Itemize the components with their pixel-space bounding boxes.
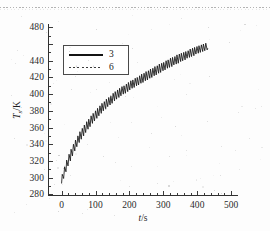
plot-area: 280300320340360380400420440480 010020030… [48,24,238,196]
y-tick-label: 380 [29,106,44,116]
legend-swatch-dotted-line: + + [68,63,104,72]
speckle-dot [14,212,15,213]
chart-figure: 280300320340360380400420440480 010020030… [0,0,270,231]
x-tick-label: 400 [190,200,205,210]
speckle-dot [50,103,52,105]
speckle-dot [240,30,241,31]
y-axis-title: Ts/K [12,101,24,119]
legend-label-6: 6 [109,61,114,74]
chart-legend: 3 + + 6 [63,45,129,75]
speckle-dot [103,156,104,157]
legend-entry-6: + + 6 [68,61,125,74]
speckle-dot [149,147,150,148]
speckle-dot [214,190,215,191]
speckle-dot [45,140,47,142]
speckle-dot [26,204,27,205]
y-tick-label: 480 [29,22,44,32]
speckle-dot [241,106,243,108]
speckle-dot [202,186,204,188]
x-tick-label: 200 [122,200,137,210]
speckle-dot [109,82,110,83]
x-axis-title-unit: /s [141,213,147,223]
y-tick-label: 400 [29,89,44,99]
speckle-dot [137,62,138,63]
speckle-dot [208,27,209,28]
x-tick-label: 300 [156,200,171,210]
speckle-dot [255,108,256,109]
legend-entry-3: 3 [68,48,125,61]
y-tick-label: 320 [29,156,44,166]
speckle-dot [75,76,76,77]
speckle-dot [15,63,16,64]
legend-label-3: 3 [109,48,114,61]
x-tick-label: 500 [224,200,239,210]
speckle-dot [120,180,121,181]
speckle-dot [49,198,50,199]
speckle-dot [256,25,257,26]
speckle-dot [36,25,38,27]
speckle-dot [54,184,55,185]
speckle-dot [260,159,261,160]
x-axis-title: t/s [48,213,238,223]
y-tick-label: 360 [29,123,44,133]
speckle-dot [151,133,152,134]
speckle-dot [62,176,63,177]
y-axis-title-unit: /K [12,101,22,111]
speckle-dot [161,117,162,118]
x-tick-label: 100 [88,200,103,210]
speckle-dot [62,184,63,185]
y-axis-title-symbol: T [12,113,22,118]
speckle-dot [26,144,28,146]
speckle-dot [261,106,262,107]
speckle-dot [238,112,239,113]
speckle-dot [11,59,12,60]
speckle-dot [186,155,187,156]
speckle-dot [258,89,259,90]
y-tick-label: 340 [29,139,44,149]
speckle-dot [174,79,175,80]
speckle-dot [115,194,116,195]
speckle-dot [77,71,78,72]
speckle-dot [14,138,15,139]
speckle-dot [64,124,65,125]
speckle-dot [157,106,158,107]
speckle-dot [168,185,170,187]
speckle-dot [56,80,57,81]
speckle-dot [75,153,77,155]
y-tick-label: 420 [29,72,44,82]
speckle-dot [58,211,59,212]
speckle-dot [110,96,111,97]
speckle-dot [200,178,201,179]
speckle-dot [42,176,44,178]
y-tick-label: 280 [29,189,44,199]
figure-root: 280300320340360380400420440480 010020030… [0,0,270,231]
speckle-dot [235,150,236,151]
x-tick-label: 0 [59,200,64,210]
y-tick-label: 440 [29,56,44,66]
speckle-dot [180,74,181,75]
speckle-dot [249,138,250,139]
speckle-dot [44,133,45,134]
speckle-dot [57,167,59,169]
y-axis-title-subscript: s [16,111,24,114]
speckle-dot [105,108,106,109]
legend-swatch-solid-line [68,50,104,59]
speckle-dot [87,209,88,210]
